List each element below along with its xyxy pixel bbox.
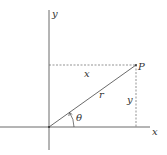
x-axis-label: x [152,126,158,137]
angle-arc [70,113,75,128]
radius-label: r [99,89,105,100]
y-axis-label: y [51,8,58,19]
polar-coordinates-diagram: y x P x y r θ [0,0,167,155]
point-p-label: P [137,61,145,72]
angle-label: θ [76,112,82,123]
vertical-leg-label: y [126,94,133,105]
origin-point [48,126,50,128]
radius-vector [49,65,136,127]
point-p [135,64,137,66]
horizontal-leg-label: x [84,68,90,79]
